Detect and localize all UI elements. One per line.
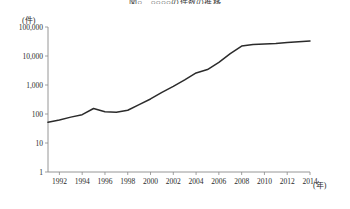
x-axis-tick-label: 2002 bbox=[166, 177, 181, 186]
axis-frame bbox=[48, 27, 310, 172]
y-axis-tick-label: 1,000 bbox=[26, 81, 43, 90]
x-axis-tick-label: 2012 bbox=[280, 177, 295, 186]
x-axis-tick-label: 1994 bbox=[75, 177, 90, 186]
y-axis-tick-label: 10,000 bbox=[22, 52, 43, 61]
y-axis-tick-label: 1 bbox=[39, 168, 43, 177]
x-axis-tick-label: 2008 bbox=[234, 177, 249, 186]
y-axis-tick-group: 100,00010,0001,000100101 bbox=[19, 23, 48, 177]
x-axis-tick-label: 1998 bbox=[120, 177, 135, 186]
x-axis-tick-group: 1992199419961998200020022004200620082010… bbox=[52, 172, 318, 186]
x-axis-tick-label: 1992 bbox=[52, 177, 67, 186]
y-axis-tick-label: 100,000 bbox=[19, 23, 44, 32]
y-axis-tick-label: 100 bbox=[32, 110, 44, 119]
x-axis-tick-label: 2000 bbox=[143, 177, 158, 186]
y-axis-tick-label: 10 bbox=[36, 139, 44, 148]
data-series-line bbox=[48, 41, 310, 122]
x-axis-tick-label: 1996 bbox=[97, 177, 112, 186]
x-axis-tick-label: 2006 bbox=[211, 177, 226, 186]
x-axis-tick-label: 2014 bbox=[303, 177, 318, 186]
chart-figure: 図○ ○○○○の件数の推移 (件) (年) 100,00010,0001,000… bbox=[0, 0, 350, 209]
x-axis-tick-label: 2004 bbox=[189, 177, 204, 186]
x-axis-tick-label: 2010 bbox=[257, 177, 272, 186]
chart-plot-area: 100,00010,0001,000100101 199219941996199… bbox=[0, 0, 350, 209]
